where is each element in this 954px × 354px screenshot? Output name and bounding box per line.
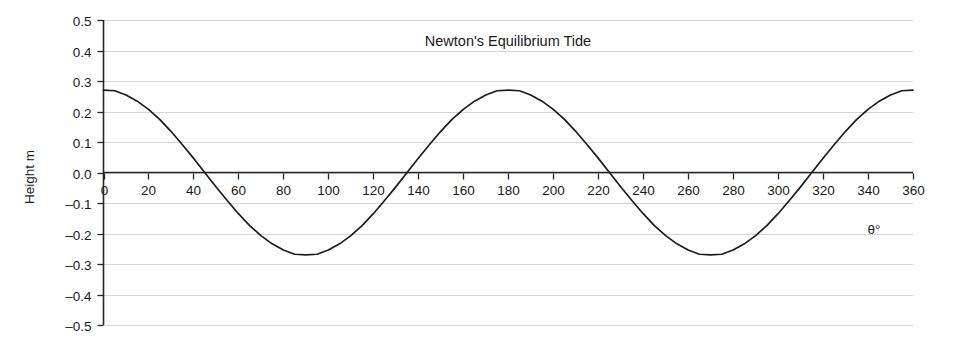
y-tick-label: 0.2 <box>73 106 92 121</box>
chart-title: Newton's Equilibrium Tide <box>425 33 591 49</box>
y-tick-label: –0.5 <box>65 319 91 334</box>
chart-figure: 0.50.40.30.20.10.0–0.1–0.2–0.3–0.4–0.5 0… <box>0 0 954 354</box>
x-tick-label: 60 <box>231 183 246 198</box>
x-tick-label: 260 <box>677 183 700 198</box>
x-tick-label: 100 <box>317 183 340 198</box>
x-tick-label: 140 <box>407 183 430 198</box>
x-tick-label: 120 <box>362 183 385 198</box>
x-tick-label: 240 <box>632 183 655 198</box>
x-tick-label: 80 <box>276 183 291 198</box>
x-tick-label: 0 <box>101 183 109 198</box>
y-tick-label: 0.3 <box>73 75 92 90</box>
x-tick-label: 160 <box>452 183 475 198</box>
x-tick-label: 360 <box>902 183 925 198</box>
y-tick-label: –0.2 <box>65 228 91 243</box>
y-tick-label: –0.3 <box>65 258 91 273</box>
y-tick-label: 0.4 <box>73 45 92 60</box>
y-axis-label: Height m <box>22 150 37 204</box>
x-tick-label: 300 <box>767 183 790 198</box>
y-tick-label: –0.4 <box>65 289 92 304</box>
y-tick-label: 0.0 <box>73 167 92 182</box>
y-tick-label: 0.5 <box>73 14 92 29</box>
y-tick-label: –0.1 <box>65 197 91 212</box>
x-tick-label: 180 <box>497 183 520 198</box>
x-axis-label: θ° <box>868 222 881 237</box>
x-tick-label: 40 <box>186 183 201 198</box>
x-tick-label: 220 <box>587 183 610 198</box>
y-tick-label: 0.1 <box>73 136 92 151</box>
x-tick-label: 320 <box>812 183 835 198</box>
chart-background <box>0 0 954 354</box>
x-tick-label: 200 <box>542 183 565 198</box>
x-tick-label: 280 <box>722 183 745 198</box>
x-tick-label: 340 <box>857 183 880 198</box>
x-tick-label: 20 <box>141 183 156 198</box>
